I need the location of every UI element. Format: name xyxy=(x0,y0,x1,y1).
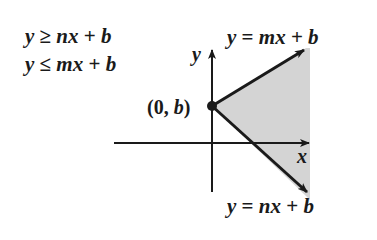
ineq1-operator: ≥ xyxy=(40,24,52,48)
point-y: b xyxy=(174,96,184,118)
ineq2-term: mx xyxy=(56,52,83,76)
x-axis-label: x xyxy=(297,146,307,166)
inequality-2: y ≤ mx + b xyxy=(25,54,116,75)
inequality-1: y ≥ nx + b xyxy=(25,26,112,47)
y-intercept-point xyxy=(207,101,217,111)
lower-plus: + xyxy=(286,194,298,218)
shaded-region xyxy=(212,48,310,200)
ineq2-plus: + xyxy=(88,52,100,76)
ineq2-lhs: y xyxy=(25,52,34,76)
ineq2-operator: ≤ xyxy=(40,52,52,76)
lower-equals: = xyxy=(242,194,254,218)
ineq1-plus: + xyxy=(84,24,96,48)
upper-lhs: y xyxy=(227,25,236,49)
ineq2-constant: b xyxy=(106,52,117,76)
y-axis-label: y xyxy=(192,44,201,64)
lower-line-label: y = nx + b xyxy=(227,196,314,217)
ineq1-term: nx xyxy=(56,24,78,48)
ineq1-lhs: y xyxy=(25,24,34,48)
upper-term: mx xyxy=(259,25,286,49)
point-x: 0 xyxy=(154,96,164,118)
point-comma: , xyxy=(164,96,169,118)
upper-line-label: y = mx + b xyxy=(227,27,319,48)
lower-lhs: y xyxy=(227,194,236,218)
upper-constant: b xyxy=(308,25,319,49)
point-label: (0, b) xyxy=(147,97,190,117)
point-open-paren: ( xyxy=(147,96,154,118)
ineq1-constant: b xyxy=(101,24,112,48)
point-close-paren: ) xyxy=(184,96,191,118)
lower-constant: b xyxy=(303,194,314,218)
lower-term: nx xyxy=(259,194,281,218)
upper-equals: = xyxy=(242,25,254,49)
upper-plus: + xyxy=(291,25,303,49)
